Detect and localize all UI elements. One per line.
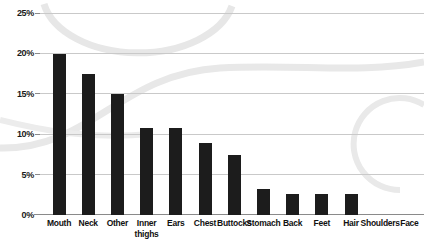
x-label-other: Other: [107, 218, 128, 229]
x-label-shoulders: Shoulders: [361, 218, 400, 229]
y-tick-10: 10%: [17, 129, 34, 139]
bar-inner-thighs: [140, 128, 153, 215]
y-tickmark-15: [35, 93, 40, 94]
bar-chest: [199, 143, 212, 215]
x-label-feet: Feet: [314, 218, 330, 229]
y-tickmark-5: [35, 174, 40, 175]
x-label-ears: Ears: [167, 218, 184, 229]
y-tick-25: 25%: [17, 8, 34, 18]
x-label-stomach: Stomach: [246, 218, 280, 229]
y-tick-0: 0%: [22, 210, 34, 220]
y-tickmark-20: [35, 53, 40, 54]
y-tick-20: 20%: [17, 48, 34, 58]
gridline-20: [40, 53, 424, 54]
bar-mouth: [53, 54, 66, 215]
bar-neck: [82, 74, 95, 216]
gridline-10: [40, 134, 424, 135]
plot-area: [40, 13, 424, 215]
y-tickmark-10: [35, 134, 40, 135]
bar-chart: 25% 20% 15% 10% 5% 0% MouthNeckOtherInne…: [0, 0, 424, 247]
y-tick-5: 5%: [22, 170, 34, 180]
bar-other: [111, 94, 124, 215]
bar-ears: [169, 128, 182, 215]
y-tickmark-25: [35, 13, 40, 14]
bar-hair: [345, 194, 358, 215]
bar-feet: [315, 194, 328, 215]
x-label-hair: Hair: [343, 218, 359, 229]
gridline-15: [40, 93, 424, 94]
bar-back: [286, 194, 299, 215]
y-axis-tick-labels: 25% 20% 15% 10% 5% 0%: [0, 13, 36, 215]
bar-stomach: [257, 189, 270, 215]
x-label-mouth: Mouth: [47, 218, 71, 229]
bar-buttocks: [228, 155, 241, 215]
x-label-back: Back: [283, 218, 302, 229]
x-axis-category-labels: MouthNeckOtherInner thighsEarsChestButto…: [40, 218, 424, 247]
gridline-25: [40, 13, 424, 14]
x-label-neck: Neck: [79, 218, 98, 229]
y-tick-15: 15%: [17, 89, 34, 99]
x-label-chest: Chest: [194, 218, 216, 229]
x-label-face: Face: [400, 218, 418, 229]
x-label-inner-thighs: Inner thighs: [135, 218, 159, 239]
